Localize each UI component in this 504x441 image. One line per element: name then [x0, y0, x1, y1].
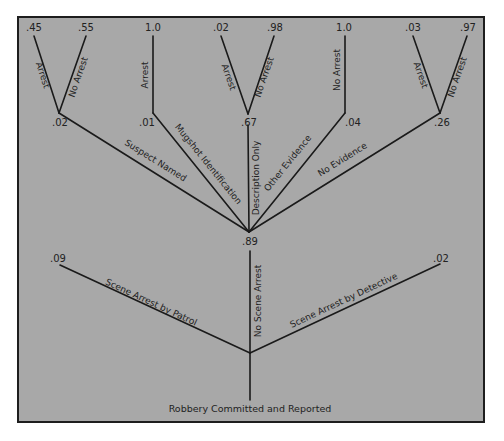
prob-noevidence-no-arrest: .97	[460, 22, 476, 33]
prob-description-no-arrest: .98	[267, 22, 283, 33]
prob-suspect-named: .02	[52, 117, 68, 128]
prob-other-evidence: .04	[345, 117, 361, 128]
prob-noevidence-arrest: .03	[405, 22, 421, 33]
prob-no-evidence: .26	[434, 117, 450, 128]
prob-description-only: .67	[241, 117, 257, 128]
prob-mugshot-arrest: 1.0	[145, 22, 161, 33]
prob-description-arrest: .02	[213, 22, 229, 33]
edge-description-only	[248, 125, 249, 232]
prob-scene-arrest-detective: .02	[433, 253, 449, 264]
edge-label-no-scene-arrest: No Scene Arrest	[253, 264, 263, 337]
root-label: Robbery Committed and Reported	[169, 403, 332, 414]
prob-suspect-no-arrest: .55	[78, 22, 94, 33]
probability-tree-diagram: Robbery Committed and Reported Scene Arr…	[0, 0, 504, 441]
prob-suspect-arrest: .45	[26, 22, 42, 33]
prob-no-scene-arrest: .89	[242, 236, 258, 247]
edge-label-mugshot-arrest: Arrest	[140, 61, 150, 88]
prob-scene-arrest-patrol: .09	[50, 253, 66, 264]
edge-label-other-no-arrest: No Arrest	[332, 49, 342, 92]
prob-other-no-arrest: 1.0	[336, 22, 352, 33]
prob-mugshot-identification: .01	[139, 117, 155, 128]
diagram-frame	[18, 17, 484, 422]
edge-label-description-only: Description Only	[251, 140, 261, 215]
